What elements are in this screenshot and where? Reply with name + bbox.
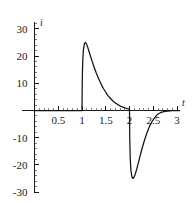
x-tick-label: 1.5 [99,114,113,126]
y-axis-label: i [40,17,43,28]
y-tick-label: -10 [13,132,28,144]
y-tick-label: -20 [13,159,28,171]
y-tick-label: 30 [17,23,29,35]
current-vs-time-plot: 0.511.522.53 -30-20-10102030 i t [0,0,196,203]
x-tick-label: 1 [79,114,85,126]
y-tick-label: -30 [13,186,28,198]
x-axis-tick-labels: 0.511.522.53 [51,114,180,126]
x-axis-label: t [182,97,185,108]
plot-canvas: 0.511.522.53 -30-20-10102030 i t [0,0,196,203]
y-tick-label: 10 [17,77,29,89]
y-tick-label: 20 [17,50,29,62]
x-tick-label: 0.5 [51,114,65,126]
x-axis-major-ticks [58,106,177,111]
x-tick-label: 3 [174,114,180,126]
